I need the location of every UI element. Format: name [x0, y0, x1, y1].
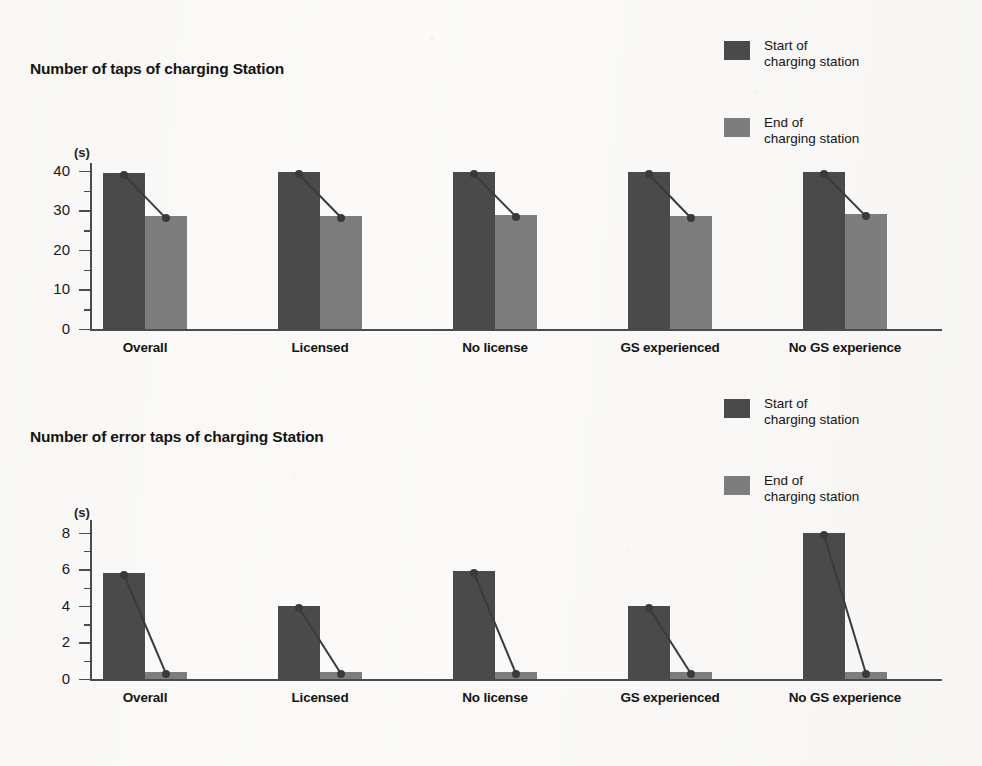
y-axis-tick [79, 642, 90, 643]
x-axis-category-label: GS experienced [588, 340, 752, 355]
bar-end [670, 216, 712, 329]
data-point-marker-start [120, 171, 128, 179]
data-point-marker-end [862, 670, 870, 678]
y-axis-minor-tick [84, 191, 90, 192]
data-point-marker-start [820, 531, 828, 539]
y-axis-tick [79, 289, 90, 290]
bar-start [628, 172, 670, 329]
data-point-marker-end [337, 214, 345, 222]
y-axis-tick [79, 679, 90, 680]
x-axis-line [90, 679, 942, 681]
y-axis-minor-tick [84, 230, 90, 231]
data-point-marker-end [512, 213, 520, 221]
chart-error-taps-of-charging-station: Number of error taps of charging Station… [0, 380, 982, 766]
y-axis-tick-label: 8 [42, 524, 70, 541]
data-point-marker-end [512, 670, 520, 678]
data-point-marker-end [162, 670, 170, 678]
bar-start [803, 533, 845, 679]
y-axis-tick-label: 4 [42, 597, 70, 614]
x-axis-line [90, 329, 942, 331]
x-axis-category-label: Overall [63, 340, 227, 355]
x-axis-category-label: Licensed [238, 690, 402, 705]
y-axis-tick-label: 0 [42, 320, 70, 337]
y-axis-minor-tick [84, 309, 90, 310]
y-axis-tick [79, 569, 90, 570]
bar-end [845, 214, 887, 329]
bar-start [278, 172, 320, 329]
bar-start [453, 571, 495, 679]
y-axis-tick-label: 20 [42, 241, 70, 258]
data-point-marker-end [337, 670, 345, 678]
y-axis-line [90, 163, 92, 330]
data-point-marker-start [645, 604, 653, 612]
plot-area: 02468OverallLicensedNo licenseGS experie… [0, 380, 982, 766]
y-axis-tick [79, 533, 90, 534]
figure-page: Number of taps of charging Station Start… [0, 0, 982, 766]
x-axis-category-label: No GS experience [763, 340, 927, 355]
x-axis-category-label: No license [413, 340, 577, 355]
y-axis-tick-label: 40 [42, 162, 70, 179]
bar-start [628, 606, 670, 679]
y-axis-tick-label: 30 [42, 201, 70, 218]
y-axis-minor-tick [84, 661, 90, 662]
data-point-marker-end [687, 670, 695, 678]
data-point-marker-end [687, 214, 695, 222]
x-axis-category-label: Licensed [238, 340, 402, 355]
plot-area: 010203040OverallLicensedNo licenseGS exp… [0, 0, 982, 380]
bar-end [320, 216, 362, 329]
data-point-marker-start [295, 604, 303, 612]
y-axis-tick [79, 329, 90, 330]
bar-start [453, 172, 495, 329]
y-axis-minor-tick [84, 270, 90, 271]
y-axis-tick [79, 606, 90, 607]
x-axis-category-label: No license [413, 690, 577, 705]
bar-end [495, 215, 537, 329]
bar-start [103, 173, 145, 329]
y-axis-tick-label: 2 [42, 633, 70, 650]
y-axis-tick-label: 10 [42, 280, 70, 297]
y-axis-tick-label: 6 [42, 560, 70, 577]
bar-end [145, 216, 187, 329]
x-axis-category-label: GS experienced [588, 690, 752, 705]
bar-start [278, 606, 320, 679]
data-point-marker-start [120, 571, 128, 579]
y-axis-tick [79, 171, 90, 172]
y-axis-line [90, 520, 92, 680]
y-axis-tick-label: 0 [42, 670, 70, 687]
y-axis-tick [79, 210, 90, 211]
data-point-marker-start [820, 170, 828, 178]
y-axis-minor-tick [84, 551, 90, 552]
y-axis-tick [79, 250, 90, 251]
bar-start [803, 172, 845, 329]
x-axis-category-label: Overall [63, 690, 227, 705]
y-axis-minor-tick [84, 624, 90, 625]
y-axis-minor-tick [84, 588, 90, 589]
x-axis-category-label: No GS experience [763, 690, 927, 705]
chart-taps-of-charging-station: Number of taps of charging Station Start… [0, 0, 982, 380]
bar-start [103, 573, 145, 679]
